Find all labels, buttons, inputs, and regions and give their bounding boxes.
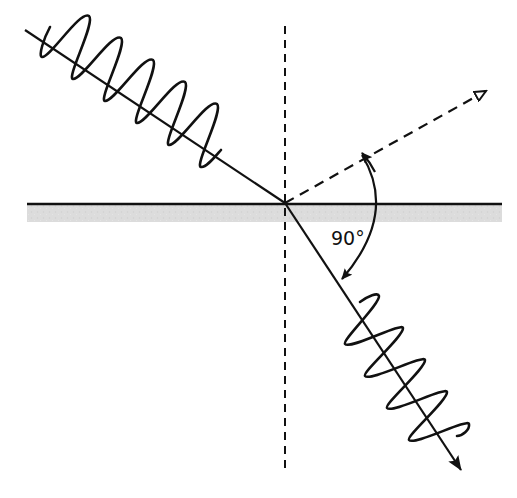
refracted-wave-icon — [345, 294, 469, 440]
brewster-angle-diagram: 90° — [0, 0, 517, 498]
medium-surface-band — [27, 204, 502, 222]
reflected-ray-dashed — [285, 91, 486, 203]
incident-wave-icon — [41, 15, 221, 167]
incident-ray — [25, 30, 285, 203]
angle-label-90-degrees: 90° — [331, 229, 365, 248]
diagram-canvas — [0, 0, 517, 498]
